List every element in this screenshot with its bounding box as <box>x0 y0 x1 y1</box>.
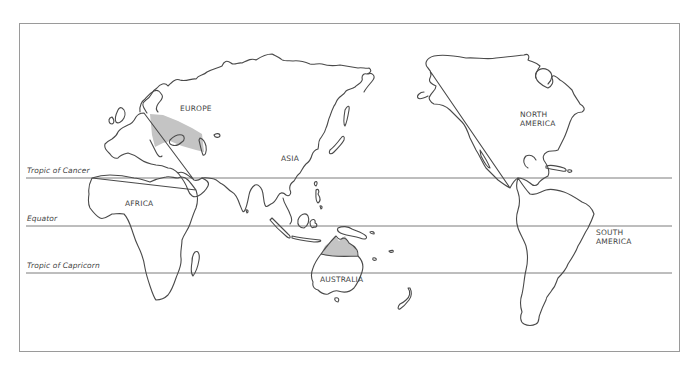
sri-lanka-outline <box>246 210 248 213</box>
equator-label: Equator <box>27 214 57 223</box>
japan-outline <box>329 136 344 153</box>
new-zealand-outline <box>398 288 411 309</box>
tasmania-outline <box>335 298 339 302</box>
gulf-of-mexico-outline <box>524 155 536 168</box>
madagascar-outline <box>191 251 199 276</box>
africa-label: AFRICA <box>125 199 153 208</box>
tropic-of-capricorn-label: Tropic of Capricorn <box>27 261 100 270</box>
tropic-of-cancer-label: Tropic of Cancer <box>27 166 90 175</box>
pacific-island-1 <box>373 258 377 261</box>
north-america-outline <box>426 54 584 188</box>
great-britain-outline <box>115 108 125 123</box>
asia-label: ASIA <box>281 154 299 163</box>
new-guinea-outline <box>337 227 366 239</box>
java-outline <box>292 236 321 242</box>
alaska-outline <box>417 92 428 99</box>
pacific-island-2 <box>389 250 393 252</box>
pacific-island-3 <box>370 232 374 234</box>
kamchatka-outline <box>364 73 374 92</box>
ireland-outline <box>109 117 114 124</box>
sumatra-outline <box>270 218 290 238</box>
aral-sea-outline <box>214 134 220 138</box>
africa-outline <box>88 175 197 300</box>
philippines-outline <box>316 189 322 209</box>
malay-peninsula-outline <box>283 198 292 224</box>
south-america-label-line2: AMERICA <box>596 237 632 246</box>
hispaniola-outline <box>568 170 572 173</box>
europe-label: EUROPE <box>180 104 212 113</box>
sakhalin-outline <box>344 106 349 126</box>
eurasia-outline <box>105 54 371 212</box>
europe-shaded-region <box>150 114 204 152</box>
south-america-outline <box>517 178 595 326</box>
taiwan-outline <box>314 181 317 186</box>
world-map <box>0 0 696 367</box>
north-america-label-line2: AMERICA <box>520 119 556 128</box>
south-america-label: SOUTH AMERICA <box>596 228 632 246</box>
north-america-label: NORTH AMERICA <box>520 110 556 128</box>
north-america-label-line1: NORTH <box>520 110 556 119</box>
australia-label: AUSTRALIA <box>320 275 363 284</box>
south-america-label-line1: SOUTH <box>596 228 632 237</box>
